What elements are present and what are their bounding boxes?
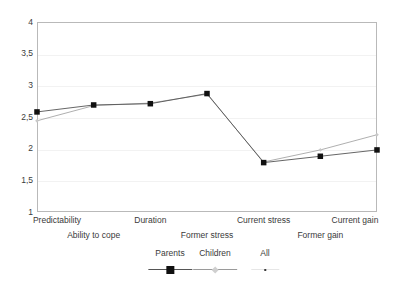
legend-swatch-icon xyxy=(199,264,231,276)
line-chart: 43,532,521,51 PredictabilityAbility to c… xyxy=(0,0,403,286)
series-line-children xyxy=(37,94,377,162)
legend-label: Parents xyxy=(155,248,184,259)
legend-entry-all: All xyxy=(260,248,269,276)
data-point-marker xyxy=(318,148,322,152)
data-point-marker xyxy=(35,119,39,123)
series-line-parents xyxy=(37,94,377,163)
data-point-marker xyxy=(318,154,324,160)
data-point-marker xyxy=(148,101,154,107)
data-point-marker xyxy=(261,160,267,166)
legend-swatch-icon xyxy=(260,264,269,276)
data-point-marker xyxy=(34,109,40,115)
data-point-marker xyxy=(374,147,380,153)
legend-label: Children xyxy=(199,248,231,259)
legend-swatch-marker xyxy=(166,266,174,274)
legend-entry-parents: Parents xyxy=(155,248,184,276)
data-point-marker xyxy=(204,91,210,97)
data-point-marker xyxy=(375,133,379,137)
data-point-marker xyxy=(91,102,97,108)
legend-entry-children: Children xyxy=(199,248,231,276)
series-layer xyxy=(0,0,403,286)
legend-swatch-marker xyxy=(211,266,218,273)
scan-artifact xyxy=(0,281,403,286)
legend-swatch-icon xyxy=(155,264,184,276)
chart-legend: ParentsChildrenAll xyxy=(0,248,403,280)
legend-label: All xyxy=(260,248,269,259)
legend-swatch-marker xyxy=(264,269,266,271)
